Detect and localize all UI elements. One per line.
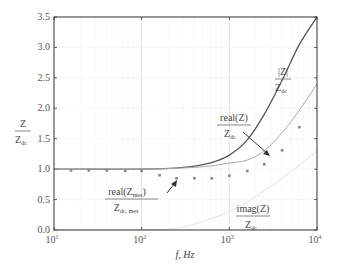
measured-marker bbox=[88, 169, 91, 172]
svg-text:Zdc: Zdc bbox=[245, 219, 257, 231]
svg-text:Zdc: Zdc bbox=[224, 128, 236, 140]
y-tick-label: 1.0 bbox=[38, 163, 51, 174]
measured-marker bbox=[263, 163, 266, 166]
y-tick-label: 3.0 bbox=[38, 41, 51, 52]
annotation-abs-z: |Z| Zdc bbox=[275, 66, 291, 94]
chart: 0.00.51.01.52.02.53.03.5 101102103104 Z … bbox=[0, 0, 337, 272]
svg-text:real(Z): real(Z) bbox=[220, 112, 248, 124]
measured-marker bbox=[281, 149, 284, 152]
measured-marker bbox=[228, 175, 231, 178]
measured-marker bbox=[140, 170, 143, 173]
x-tick-label: 103 bbox=[221, 234, 234, 245]
svg-text:Z: Z bbox=[20, 118, 26, 129]
measured-marker bbox=[105, 169, 108, 172]
svg-text:Zdc: Zdc bbox=[275, 82, 287, 94]
measured-marker bbox=[193, 177, 196, 180]
measured-marker bbox=[210, 177, 213, 180]
y-tick-label: 1.5 bbox=[38, 133, 51, 144]
svg-text:|Z|: |Z| bbox=[278, 66, 288, 77]
measured-marker bbox=[158, 174, 161, 177]
x-tick-label: 104 bbox=[309, 234, 322, 245]
arrowhead-icon bbox=[171, 180, 177, 187]
measured-marker bbox=[124, 170, 127, 173]
data-series bbox=[54, 17, 317, 230]
measured-marker bbox=[298, 126, 301, 129]
y-tick-label: 2.0 bbox=[38, 102, 51, 113]
measured-marker bbox=[246, 170, 249, 173]
dark-line-curve bbox=[54, 17, 317, 169]
y-tick-label: 2.5 bbox=[38, 72, 51, 83]
y-axis-label: Z Zdc bbox=[15, 118, 31, 146]
y-tick-label: 3.5 bbox=[38, 11, 51, 22]
svg-text:Zdc: Zdc bbox=[15, 134, 27, 146]
light-line-curve bbox=[54, 84, 317, 169]
x-tick-label: 102 bbox=[133, 234, 146, 245]
svg-text:real(Zmes): real(Zmes) bbox=[108, 186, 145, 198]
faint-line-curve bbox=[54, 151, 317, 230]
annotation-imag-z: imag(Z) Zdc bbox=[236, 203, 270, 231]
y-tick-label: 0.5 bbox=[38, 194, 51, 205]
x-tick-label: 101 bbox=[46, 234, 59, 245]
grid-lines bbox=[54, 17, 317, 230]
svg-text:imag(Z): imag(Z) bbox=[237, 203, 270, 215]
annotation-real-z-mes: real(Zmes) Zdc, mes bbox=[105, 180, 177, 214]
measured-marker bbox=[175, 177, 178, 180]
x-axis-label: f, Hz bbox=[176, 249, 195, 260]
plot-frame bbox=[54, 17, 317, 230]
y-axis-ticks: 0.00.51.01.52.02.53.03.5 bbox=[38, 11, 318, 235]
measured-marker bbox=[70, 169, 73, 172]
svg-text:Zdc, mes: Zdc, mes bbox=[114, 202, 139, 214]
